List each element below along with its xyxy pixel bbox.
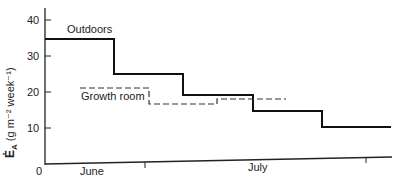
y-tick-label-40: 40 [27, 14, 39, 26]
svg-text:ĖA (g m⁻² week⁻¹): ĖA (g m⁻² week⁻¹) [2, 67, 19, 158]
y-axis-title: ĖA (g m⁻² week⁻¹) [2, 67, 19, 158]
y-tick-label-10: 10 [27, 122, 39, 134]
x-axis [45, 157, 392, 164]
y-tick-label-20: 20 [27, 86, 39, 98]
legend-outdoors: Outdoors [67, 23, 113, 35]
step-chart: 40 30 20 10 0 June July ĖA (g m⁻² week⁻¹… [0, 0, 402, 188]
series-outdoors [45, 39, 391, 127]
x-label-june: June [80, 165, 104, 177]
y-tick-label-30: 30 [27, 50, 39, 62]
x-label-july: July [248, 161, 268, 173]
origin-label: 0 [36, 165, 42, 177]
legend-growth-room: Growth room [81, 90, 145, 102]
